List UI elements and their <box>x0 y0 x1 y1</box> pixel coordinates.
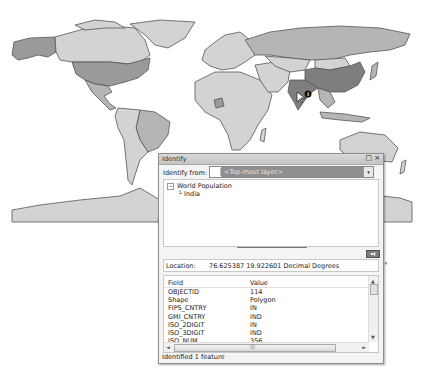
location-menu-icon[interactable]: ▾ <box>384 260 387 266</box>
tree-layer-label: World Population <box>177 182 232 190</box>
country-new-zealand[interactable] <box>400 160 406 174</box>
splitter-handle[interactable] <box>237 247 307 248</box>
chevron-down-icon[interactable]: ▾ <box>363 167 373 177</box>
table-row[interactable]: ShapePolygon <box>164 296 369 304</box>
field-value: IN <box>250 321 257 329</box>
table-header: Field Value <box>164 276 369 288</box>
tree-branch-icon: └ <box>178 190 182 198</box>
status-text: Identified 1 feature <box>162 353 224 361</box>
country-indonesia[interactable] <box>320 112 370 122</box>
svg-text:i: i <box>307 91 309 97</box>
results-tree: −World Population └ India <box>163 179 379 247</box>
country-japan[interactable] <box>370 62 378 80</box>
field-value: IND <box>250 313 262 321</box>
location-value: 76.625387 19.922601 Decimal Degrees <box>209 262 339 270</box>
field-value: IND <box>250 329 262 337</box>
vertical-scrollbar[interactable]: ▲ ▼ <box>368 276 378 342</box>
close-icon[interactable]: × <box>374 154 380 162</box>
collapse-icon[interactable]: − <box>167 183 174 190</box>
country-usa[interactable] <box>72 58 150 86</box>
table-row[interactable]: FIPS_CNTRYIN <box>164 304 369 312</box>
field-name: ISO_2DIGIT <box>168 321 204 329</box>
tree-node-feature[interactable]: └ India <box>178 190 200 198</box>
location-label: Location: <box>166 262 196 270</box>
field-name: ISO_3DIGIT <box>168 329 204 337</box>
window-title: Identify <box>162 155 187 163</box>
country-madagascar[interactable] <box>260 128 266 142</box>
attribute-table: Field Value OBJECTID114ShapePolygonFIPS_… <box>163 275 379 353</box>
field-value: 114 <box>250 288 262 296</box>
horizontal-scrollbar[interactable]: ◄ ||| ► <box>164 342 369 352</box>
column-header-value[interactable]: Value <box>250 279 268 287</box>
identify-from-dropdown[interactable]: <Top-most layer> ▾ <box>209 166 374 178</box>
scroll-left-icon[interactable]: ◄ <box>166 344 170 350</box>
field-value: IN <box>250 304 257 312</box>
country-canada[interactable] <box>55 26 150 64</box>
location-bar: Location: 76.625387 19.922601 Decimal De… <box>163 259 379 272</box>
country-russia[interactable] <box>245 26 410 60</box>
title-bar[interactable]: Identify □ × <box>159 154 383 165</box>
scroll-grip-icon: ||| <box>250 343 255 349</box>
field-name: FIPS_CNTRY <box>168 304 206 312</box>
field-name: GMI_CNTRY <box>168 313 205 321</box>
column-header-field[interactable]: Field <box>168 279 183 287</box>
scroll-down-icon[interactable]: ▼ <box>371 334 375 340</box>
scroll-right-icon[interactable]: ► <box>362 344 366 350</box>
region-europe[interactable] <box>202 32 255 70</box>
tree-feature-label: India <box>184 190 200 198</box>
field-name: OBJECTID <box>168 288 199 296</box>
field-value: Polygon <box>250 296 276 304</box>
tree-node-layer[interactable]: −World Population <box>167 182 232 190</box>
country-nigeria[interactable] <box>214 98 224 108</box>
vertical-scroll-thumb[interactable] <box>370 284 378 295</box>
restore-icon[interactable]: □ <box>365 154 372 162</box>
region-antarctica[interactable] <box>12 188 160 222</box>
info-marker-icon: i <box>305 91 312 98</box>
view-toggle-button[interactable]: ▪▮ <box>366 250 380 258</box>
field-name: Shape <box>168 296 188 304</box>
table-row[interactable]: ISO_2DIGITIN <box>164 321 369 329</box>
region-antarctica-east[interactable] <box>382 196 412 222</box>
table-row[interactable]: GMI_CNTRYIND <box>164 313 369 321</box>
layer-swatch <box>211 168 221 176</box>
identify-window: Identify □ × Identify from: <Top-most la… <box>158 153 384 364</box>
country-alaska[interactable] <box>12 37 56 60</box>
table-row[interactable]: OBJECTID114 <box>164 288 369 296</box>
table-row[interactable]: ISO_3DIGITIND <box>164 329 369 337</box>
identify-from-label: Identify from: <box>163 169 207 177</box>
identify-from-value: <Top-most layer> <box>221 167 363 177</box>
